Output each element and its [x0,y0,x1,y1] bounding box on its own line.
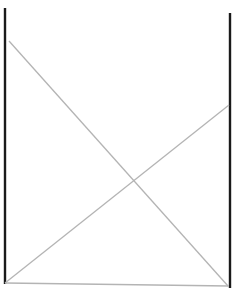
base-line [5,283,229,286]
diagonal-up-line [5,105,229,283]
diagram-canvas [0,0,232,292]
diagonal-down-line [9,41,228,286]
